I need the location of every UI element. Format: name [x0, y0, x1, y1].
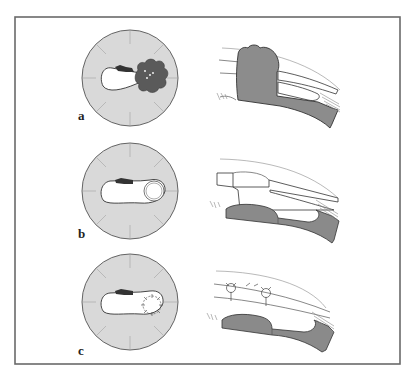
excised-wall-b: [217, 173, 338, 210]
panel-b: b: [78, 143, 339, 243]
medical-diagram: a: [0, 0, 413, 373]
figure-frame: [15, 17, 400, 364]
panel-label-a: a: [78, 108, 85, 123]
panel-label-c: c: [78, 343, 84, 358]
cross-section-a: [82, 30, 178, 126]
tumor-mass-a: [135, 59, 168, 92]
cross-section-b: [82, 143, 178, 239]
longitudinal-view-b: [210, 159, 339, 243]
panel-a: a: [78, 30, 340, 128]
panel-c: c: [78, 254, 334, 358]
panel-label-b: b: [78, 226, 85, 241]
longitudinal-view-c: [207, 271, 334, 352]
lower-wall-c: [222, 314, 334, 352]
cross-section-c: [82, 254, 178, 350]
longitudinal-view-a: [217, 45, 340, 128]
